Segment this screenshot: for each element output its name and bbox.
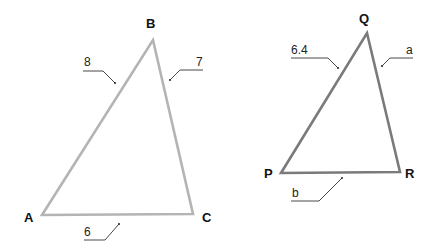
vertex-label-r: R — [405, 166, 415, 181]
side-pq-length: 6.4 — [291, 43, 308, 57]
side-qr-length: a — [406, 43, 413, 57]
side-ab-length: 8 — [84, 55, 91, 69]
vertex-label-p: P — [264, 166, 273, 181]
side-label-ac: 6 — [84, 223, 120, 240]
similar-triangles-diagram: A B C 8 7 6 P Q R 6.4 a b — [0, 0, 437, 247]
vertex-label-b: B — [146, 16, 155, 31]
vertex-label-c: C — [202, 210, 212, 225]
side-label-pr: b — [291, 177, 343, 201]
side-label-ab: 8 — [83, 55, 116, 84]
vertex-label-q: Q — [359, 11, 369, 26]
side-label-pq: 6.4 — [291, 43, 339, 69]
triangle-abc — [42, 40, 193, 215]
side-bc-length: 7 — [196, 55, 203, 69]
side-ac-length: 6 — [84, 225, 91, 239]
side-pr-length: b — [292, 186, 299, 200]
side-label-bc: 7 — [169, 55, 203, 81]
vertex-label-a: A — [24, 210, 34, 225]
side-label-qr: a — [381, 43, 413, 67]
